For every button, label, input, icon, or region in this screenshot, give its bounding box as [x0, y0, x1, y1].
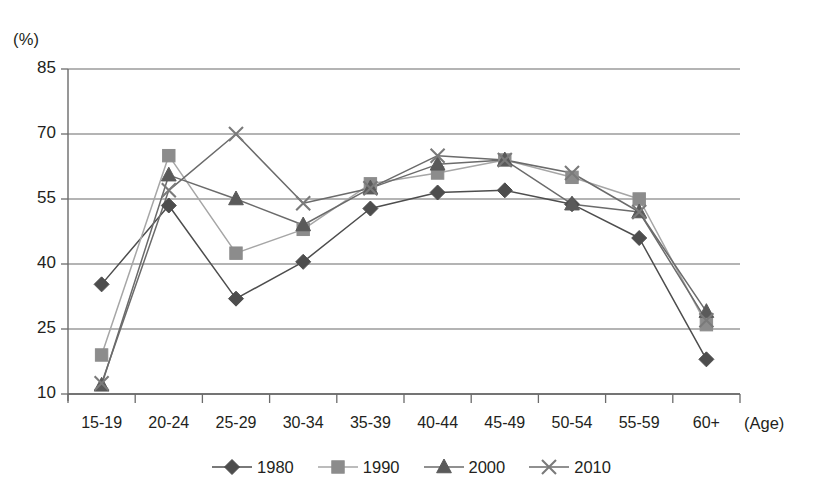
y-tick-label: 85 — [16, 58, 56, 78]
data-point-1980-55-59 — [632, 231, 647, 246]
chart-legend: 1980199020002010 — [0, 452, 821, 482]
y-tick-label: 10 — [16, 383, 56, 403]
legend-label: 1990 — [363, 458, 400, 477]
series-lines-group — [102, 134, 707, 385]
series-line-1990 — [102, 156, 707, 355]
triangle-marker — [422, 457, 466, 477]
cross-marker — [527, 457, 571, 477]
series-markers-group — [94, 127, 714, 391]
data-point-1980-60+ — [699, 352, 714, 367]
data-point-1980-45-49 — [497, 183, 512, 198]
chart-container: (%) 857055402510 15-1920-2425-2930-3435-… — [0, 0, 821, 486]
y-tick-label: 70 — [16, 123, 56, 143]
data-point-1990-15-19 — [95, 349, 107, 361]
diamond-marker — [210, 457, 254, 477]
series-line-2010 — [102, 134, 707, 383]
data-point-1990-20-24 — [163, 149, 175, 161]
legend-label: 2010 — [574, 458, 611, 477]
series-line-2000 — [102, 160, 707, 385]
x-tick-label: 60+ — [666, 414, 746, 432]
y-tick-label: 40 — [16, 253, 56, 273]
legend-item-1980[interactable]: 1980 — [210, 457, 294, 477]
square-marker — [316, 457, 360, 477]
legend-label: 1980 — [257, 458, 294, 477]
data-point-1980-25-29 — [229, 291, 244, 306]
data-point-1990-25-29 — [230, 247, 242, 259]
data-point-1980-35-39 — [363, 201, 378, 216]
diamond-marker — [225, 460, 240, 475]
triangle-marker — [436, 459, 451, 473]
square-marker — [332, 461, 344, 473]
legend-label: 2000 — [469, 458, 506, 477]
x-axis-unit-label: (Age) — [744, 414, 784, 433]
legend-item-2010[interactable]: 2010 — [527, 457, 611, 477]
series-line-1980 — [102, 190, 707, 359]
data-point-1980-40-44 — [430, 185, 445, 200]
data-point-1980-30-34 — [296, 254, 311, 269]
legend-item-1990[interactable]: 1990 — [316, 457, 400, 477]
y-tick-label: 55 — [16, 188, 56, 208]
legend-item-2000[interactable]: 2000 — [422, 457, 506, 477]
y-tick-label: 25 — [16, 318, 56, 338]
